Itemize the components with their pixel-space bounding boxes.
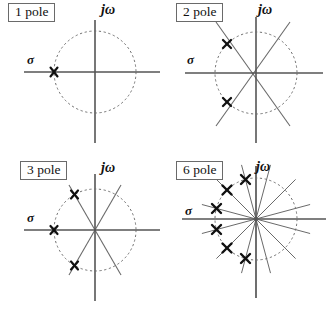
panel-title-box: 3 pole (20, 161, 67, 180)
imag-axis-label: jω (256, 159, 270, 175)
plot-area-1-pole (0, 0, 167, 157)
imag-axis-label: jω (101, 160, 115, 176)
imag-axis-label: jω (101, 2, 115, 18)
real-axis-label: σ (27, 210, 34, 226)
panel-title-box: 6 pole (176, 161, 223, 180)
panel-2-pole: 2 pole jω σ (168, 0, 335, 157)
panel-1-pole: 1 pole jω σ (0, 0, 167, 157)
butterworth-pole-figure: 1 pole jω σ 2 pole jω σ (0, 0, 335, 315)
panel-3-pole: 3 pole jω σ (0, 158, 167, 315)
axes (24, 20, 160, 143)
axes (24, 174, 160, 301)
panel-6-pole: 6 pole jω σ (168, 158, 335, 315)
plot-area-2-pole (168, 0, 335, 157)
imag-axis-label: jω (258, 2, 272, 18)
real-axis-label: σ (187, 52, 194, 68)
panel-title-box: 1 pole (8, 3, 55, 22)
axes (185, 17, 323, 143)
plot-area-6-pole (168, 158, 335, 315)
asymptote-lines (216, 22, 290, 126)
real-axis-label: σ (27, 52, 34, 68)
plot-area-3-pole (0, 158, 167, 315)
real-axis-label: σ (185, 203, 192, 219)
panel-title-box: 2 pole (176, 3, 223, 22)
